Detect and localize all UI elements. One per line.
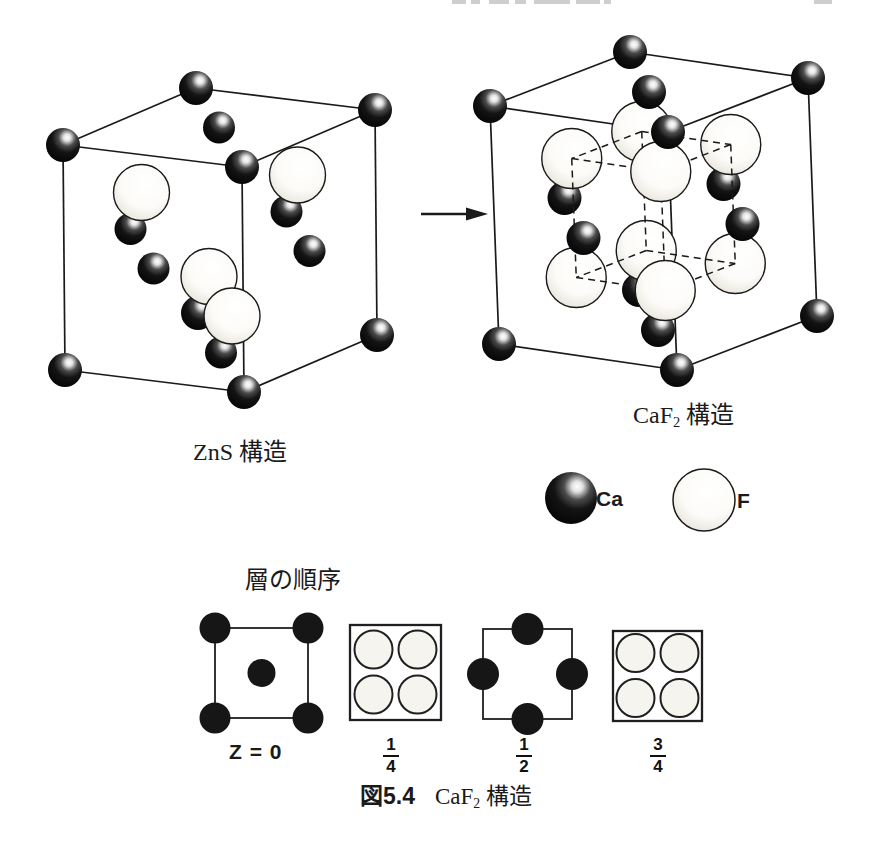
legend-ca-label: Ca [596, 486, 623, 511]
dark-site [556, 658, 588, 690]
cation-sphere [613, 35, 647, 69]
cube-edge [630, 52, 808, 78]
dark-site [512, 613, 544, 645]
arrow-head [466, 208, 488, 221]
dark-site [200, 613, 231, 644]
cation-sphere [482, 327, 516, 361]
dark-site [293, 703, 324, 734]
scan-artifact-marks [452, 0, 832, 4]
light-site [617, 679, 655, 717]
fraction-numerator: 1 [383, 735, 398, 757]
anion-sphere [204, 288, 260, 344]
layer-diagram-0 [200, 613, 324, 734]
cation-sphere [651, 115, 685, 149]
cation-sphere [567, 221, 601, 255]
cation-sphere [179, 71, 213, 105]
cation-sphere [360, 318, 394, 352]
cube-edge [499, 344, 677, 370]
caption-formula: CaF [435, 784, 473, 809]
cube-edge [677, 316, 817, 370]
zns-unit-cell [46, 71, 394, 409]
scan-mark [515, 0, 526, 4]
cation-sphere [225, 150, 259, 184]
cation-sphere [632, 75, 666, 109]
caf2-unit-cell [473, 35, 834, 387]
cube-edge [808, 78, 817, 316]
scan-mark [534, 0, 570, 4]
fraction-numerator: 1 [516, 735, 531, 757]
dark-site [512, 703, 544, 735]
legend-f-label: F [737, 488, 750, 513]
layer-diagram-1 [350, 625, 441, 720]
cube-edge [63, 88, 196, 145]
fraction-denominator: 2 [509, 757, 539, 776]
cation-sphere [800, 299, 834, 333]
scan-mark [576, 0, 600, 4]
legend [545, 469, 735, 531]
crystal-structure-figure [0, 0, 875, 846]
scan-mark [604, 0, 611, 4]
caf2-label-suffix: 構造 [680, 402, 734, 428]
fraction-denominator: 4 [643, 757, 673, 776]
legend-f-sphere [673, 469, 735, 531]
layer-z0-label: Z = 0 [229, 739, 282, 764]
cube-edge [375, 110, 377, 335]
zns-structure-label: ZnS 構造 [193, 438, 287, 467]
layer-diagram-3 [613, 631, 702, 721]
light-site [661, 679, 699, 717]
dark-site [293, 613, 324, 644]
layer-order-heading: 層の順序 [245, 566, 341, 595]
figure-caption: 図5.4CaF2 構造 [360, 783, 532, 813]
cube-edge [65, 370, 244, 392]
light-site [355, 676, 393, 714]
anion-sphere [270, 147, 326, 203]
light-site [617, 634, 655, 672]
fraction-denominator: 4 [376, 757, 406, 776]
cation-sphere [660, 353, 694, 387]
cation-sphere [473, 89, 507, 123]
scan-mark [489, 0, 509, 4]
dark-site [248, 659, 276, 687]
cation-sphere [294, 235, 326, 267]
cation-sphere [48, 353, 82, 387]
layer-quarter-label: 14 [376, 735, 406, 776]
cube-edge [244, 335, 377, 392]
cube-edge [196, 88, 375, 110]
figure-number: 図5.4 [360, 783, 415, 809]
scan-mark [471, 0, 480, 4]
cube-edge [63, 145, 242, 167]
caption-suffix: 構造 [480, 784, 532, 809]
cation-sphere [138, 253, 170, 285]
dark-site [467, 658, 499, 690]
light-site [661, 634, 699, 672]
layer-diagram-2 [467, 613, 588, 735]
scan-mark [452, 0, 466, 4]
cube-edge [490, 106, 499, 344]
cation-sphere [46, 128, 80, 162]
anion-sphere [631, 142, 691, 202]
caf2-label-formula: CaF [633, 402, 673, 428]
cation-sphere [726, 207, 760, 241]
light-site [355, 631, 393, 669]
anion-sphere [635, 261, 695, 321]
transform-arrow [421, 208, 488, 221]
layer-sequence-diagrams [200, 613, 703, 736]
anion-sphere [114, 165, 170, 221]
fraction-numerator: 3 [650, 735, 665, 757]
light-site [399, 631, 437, 669]
cube-edge [242, 167, 244, 392]
cation-sphere [358, 93, 392, 127]
cation-sphere [227, 375, 261, 409]
cube-edge [490, 52, 630, 106]
textbook-figure-page: ZnS 構造 CaF2 構造 Ca F 層の順序 Z = 0 14 12 34 … [0, 0, 875, 846]
layer-three-quarter-label: 34 [643, 735, 673, 776]
dark-site [200, 703, 231, 734]
cube-edge [63, 145, 65, 370]
scan-mark [814, 0, 832, 4]
cation-sphere [203, 112, 235, 144]
layer-half-label: 12 [509, 735, 539, 776]
legend-ca-sphere [545, 472, 597, 524]
caf2-structure-label: CaF2 構造 [633, 401, 734, 432]
cation-sphere [791, 61, 825, 95]
light-site [399, 676, 437, 714]
